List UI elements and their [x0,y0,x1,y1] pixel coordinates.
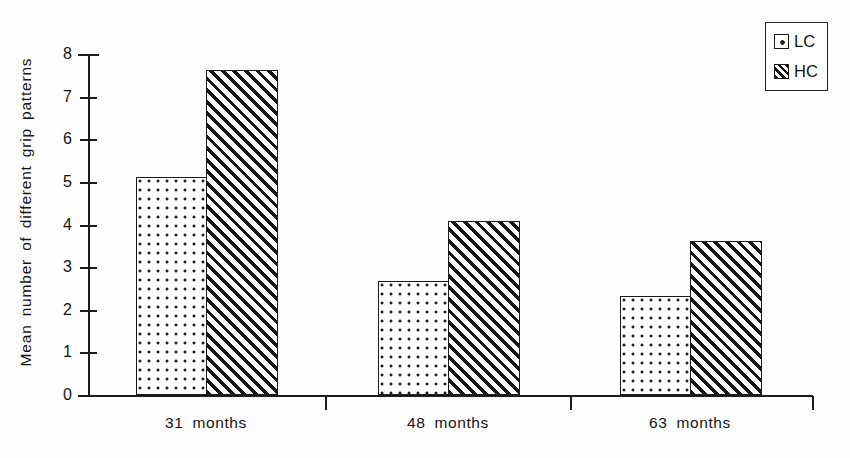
bar-hc-31-months [206,70,278,395]
bar-lc-48-months [378,281,450,395]
y-axis-tick-label: 0 [46,387,72,403]
y-axis-tick-label: 3 [46,259,72,275]
y-axis-tick [80,310,97,312]
legend-label-lc: LC [794,33,815,50]
legend-item-lc: LC [774,30,818,53]
y-axis-tick-label: 5 [46,174,72,190]
y-axis-tick [80,139,97,141]
bar-lc-31-months [136,177,208,395]
y-axis-tick [80,352,97,354]
x-axis-tick [570,396,572,410]
hatched-swatch-icon [774,64,789,79]
y-axis-tick-label: 1 [46,344,72,360]
x-axis-tick [325,396,327,410]
y-axis-tick [78,395,99,397]
y-axis-tick-label: 2 [46,302,72,318]
y-axis-title: Mean number of different grip patterns [17,42,41,382]
x-axis-line [88,395,813,397]
y-axis-tick-label: 7 [46,89,72,105]
dotted-swatch-icon [774,34,789,49]
y-axis-tick [80,267,97,269]
bar-hc-48-months [448,221,520,395]
legend: LC HC [765,22,828,91]
y-axis-tick-label: 6 [46,131,72,147]
bar-chart-figure: Mean number of different grip patterns 0… [0,0,850,458]
y-axis-tick [80,182,97,184]
y-axis-tick-label: 8 [46,46,72,62]
x-axis-tick-label: 63 months [610,414,770,432]
y-axis-tick-label: 4 [46,217,72,233]
x-axis-tick-label: 31 months [126,414,286,432]
bar-lc-63-months [620,296,692,395]
y-axis-tick [80,225,97,227]
legend-item-hc: HC [774,60,818,83]
y-axis-tick [80,97,97,99]
y-axis-tick [78,54,99,56]
x-axis-tick [812,396,814,410]
legend-label-hc: HC [794,63,818,80]
x-axis-tick-label: 48 months [368,414,528,432]
bar-hc-63-months [690,241,762,395]
